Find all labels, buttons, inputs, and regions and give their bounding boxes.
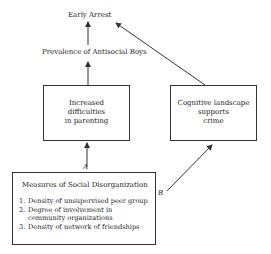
list-item-2: 2.Degree of involvement in bbox=[19, 206, 148, 215]
parenting-line-2: difficulties bbox=[44, 108, 129, 117]
node-social-disorg-box: Measures of Social Disorganization 1.Den… bbox=[12, 172, 156, 245]
node-parenting-box: Increased difficulties in parenting bbox=[43, 85, 130, 141]
list-item-3: 3.Density of network of friendships bbox=[19, 223, 148, 232]
arrow-b bbox=[167, 145, 212, 191]
edge-label-b: B bbox=[158, 189, 163, 197]
parenting-line-1: Increased bbox=[44, 99, 129, 108]
node-early-arrest: Early Arrest bbox=[68, 11, 111, 19]
node-prevalence: Prevalence of Antisocial Boys bbox=[42, 48, 147, 56]
list-item-2-cont: community organizations bbox=[19, 214, 148, 223]
list-item-1: 1.Density of unsupervised peer group bbox=[19, 197, 148, 206]
cognitive-line-3: crime bbox=[171, 117, 256, 126]
edge-label-a: A bbox=[83, 163, 88, 171]
social-disorg-title: Measures of Social Disorganization bbox=[22, 181, 148, 189]
cognitive-line-2: supports bbox=[171, 108, 256, 117]
cognitive-line-1: Cognitive landscape bbox=[171, 99, 256, 108]
parenting-line-3: in parenting bbox=[44, 117, 129, 126]
social-disorg-list: 1.Density of unsupervised peer group 2.D… bbox=[19, 197, 148, 231]
node-cognitive-box: Cognitive landscape supports crime bbox=[170, 85, 257, 141]
